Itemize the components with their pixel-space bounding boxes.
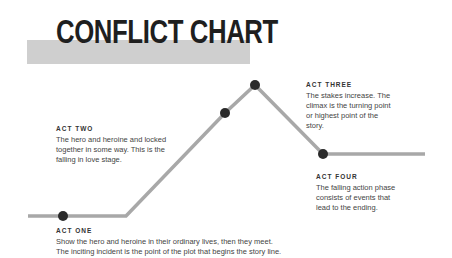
act-four-text-line: The falling action phase [316, 183, 436, 193]
act-one-heading: ACT ONE [56, 226, 356, 236]
act-four-marker [318, 149, 328, 159]
conflict-chart-page: CONFLICT CHART ACT TWO The hero and hero… [0, 0, 452, 258]
act-two-text-line: falling in love stage. [56, 155, 186, 165]
act-three-label: ACT THREE The stakes increase. The clima… [306, 80, 426, 131]
act-two-text-line: The hero and heroine and locked [56, 135, 186, 145]
act-three-text-line: story. [306, 121, 426, 131]
act-four-label: ACT FOUR The falling action phase consis… [316, 172, 436, 213]
act-two-text-line: together in some way. This is the [56, 145, 186, 155]
act-three-heading: ACT THREE [306, 80, 426, 90]
act-three-text-line: or highest point of the [306, 111, 426, 121]
act-three-text-line: climax is the turning point [306, 101, 426, 111]
act-four-text-line: consists of events that [316, 193, 436, 203]
act-two-label: ACT TWO The hero and heroine and locked … [56, 124, 186, 165]
act-three-text-line: The stakes increase. The [306, 91, 426, 101]
act-one-label: ACT ONE Show the hero and heroine in the… [56, 226, 356, 257]
act-one-text-line: Show the hero and heroine in their ordin… [56, 237, 356, 247]
act-four-text-line: lead to the ending. [316, 203, 436, 213]
act-two-heading: ACT TWO [56, 124, 186, 134]
act-three-marker [250, 80, 260, 90]
act-one-text-line: The inciting incident is the point of th… [56, 247, 356, 257]
act-two-marker [220, 108, 230, 118]
act-four-heading: ACT FOUR [316, 172, 436, 182]
act-one-marker [58, 211, 68, 221]
